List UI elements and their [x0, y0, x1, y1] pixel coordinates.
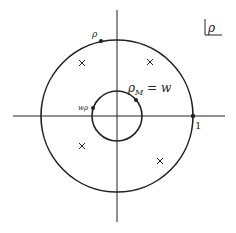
point-rho: [99, 39, 103, 43]
point-rho-m: [134, 98, 138, 102]
label-rho-m: ρM = w: [127, 81, 172, 97]
corner-variable-label: ρ: [205, 19, 222, 35]
point-w-rho: [91, 106, 95, 110]
label-w-rho: wρ: [78, 104, 89, 112]
label-one: 1: [195, 120, 201, 131]
cross-marker-1: [79, 60, 85, 66]
cross-marker-2: [147, 59, 153, 65]
cross-marker-3: [79, 143, 85, 149]
cross-marker-4: [157, 158, 163, 164]
corner-rho-text: ρ: [207, 21, 215, 35]
label-rho: ρ: [91, 29, 98, 39]
complex-plane-diagram: ρ wρ ρM = w 1 ρ: [0, 0, 236, 233]
point-one: [191, 114, 195, 118]
